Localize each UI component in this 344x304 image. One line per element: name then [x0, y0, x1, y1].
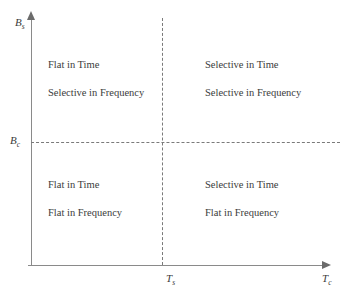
y-axis-tick-symbol: B	[10, 134, 17, 146]
x-axis-label-subscript: c	[328, 278, 331, 287]
quadrant-bottom-right-line1: Selective in Time	[205, 180, 279, 191]
quadrant-top-right-line1: Selective in Time	[205, 60, 301, 71]
quadrant-bottom-left: Flat in Time Flat in Frequency	[48, 180, 122, 218]
x-axis-tick-subscript: s	[172, 278, 175, 287]
quadrant-bottom-left-line1: Flat in Time	[48, 180, 122, 191]
y-axis-tick-subscript: c	[17, 140, 20, 149]
x-axis-line	[28, 265, 324, 266]
y-axis-tick-label: Bc	[10, 135, 20, 149]
quadrant-top-left-line2: Selective in Frequency	[48, 88, 144, 99]
x-axis-tick-label: Ts	[166, 273, 175, 287]
quadrant-top-right: Selective in Time Selective in Frequency	[205, 60, 301, 98]
quadrant-bottom-right: Selective in Time Flat in Frequency	[205, 180, 279, 218]
quadrant-top-left: Flat in Time Selective in Frequency	[48, 60, 144, 98]
quadrant-top-left-line1: Flat in Time	[48, 60, 144, 71]
quadrant-bottom-right-line2: Flat in Frequency	[205, 208, 279, 219]
y-axis-label-subscript: s	[22, 22, 25, 31]
x-axis-label: Tc	[322, 273, 331, 287]
y-axis-label-symbol: B	[15, 16, 22, 28]
y-axis-arrowhead-icon	[27, 11, 35, 20]
x-axis-arrowhead-icon	[322, 261, 331, 269]
fading-channel-classification-diagram: Bs Bc Ts Tc Flat in Time Selective in Fr…	[0, 0, 344, 304]
horizontal-threshold-dashed-line	[31, 142, 340, 143]
quadrant-bottom-left-line2: Flat in Frequency	[48, 208, 122, 219]
y-axis-label: Bs	[15, 17, 25, 31]
quadrant-top-right-line2: Selective in Frequency	[205, 88, 301, 99]
